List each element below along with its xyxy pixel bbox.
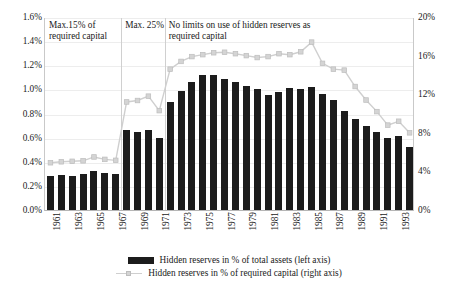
bar xyxy=(199,75,206,210)
legend-bar-swatch-icon xyxy=(128,257,154,264)
x-axis-tick-label: 1991 xyxy=(380,212,389,231)
bar xyxy=(69,176,76,210)
bar xyxy=(373,132,380,210)
left-axis-tick-label: 0.6% xyxy=(2,134,42,143)
bar xyxy=(297,89,304,210)
x-axis-labels: 1961196319651967196919711973197519771979… xyxy=(44,212,414,254)
left-axis-tick-label: 0.4% xyxy=(2,158,42,167)
bar xyxy=(167,102,174,210)
x-axis-tick-label: 1963 xyxy=(75,212,84,231)
bar xyxy=(243,86,250,210)
annotation-period-1: Max.15% of required capital xyxy=(49,20,121,42)
right-axis-tick-label: 20% xyxy=(418,13,458,22)
bar xyxy=(210,75,217,210)
bar xyxy=(406,147,413,210)
bar-series-total-assets xyxy=(45,18,413,210)
bar xyxy=(363,126,370,210)
bar xyxy=(134,132,141,210)
bar xyxy=(123,130,130,210)
x-axis-tick-label: 1983 xyxy=(293,212,302,231)
bar xyxy=(232,82,239,210)
left-axis-tick-label: 0.8% xyxy=(2,110,42,119)
bar xyxy=(58,175,65,210)
left-axis-tick-label: 0.0% xyxy=(2,206,42,215)
x-axis-tick-label: 1973 xyxy=(184,212,193,231)
bar xyxy=(188,82,195,210)
bar xyxy=(112,174,119,210)
left-axis-tick-label: 1.4% xyxy=(2,37,42,46)
legend-label-required-capital: Hidden reserves in % of required capital… xyxy=(148,268,342,278)
bar xyxy=(319,94,326,210)
bar xyxy=(156,138,163,210)
bar xyxy=(47,176,54,210)
chart-legend: Hidden reserves in % of total assets (le… xyxy=(0,255,458,278)
annotation-period-3: No limits on use of hidden reserves as r… xyxy=(169,20,339,42)
bar xyxy=(341,111,348,210)
bar xyxy=(178,91,185,210)
x-axis-tick-label: 1981 xyxy=(271,212,280,231)
bar xyxy=(286,88,293,210)
right-axis-tick-label: 16% xyxy=(418,52,458,61)
chart-container: 0.0%0.2%0.4%0.6%0.8%1.0%1.2%1.4%1.6% 0%4… xyxy=(0,0,458,291)
x-axis-tick-label: 1979 xyxy=(249,212,258,231)
legend-item-required-capital: Hidden reserves in % of required capital… xyxy=(116,268,342,278)
x-axis-tick-label: 1985 xyxy=(315,212,324,231)
x-axis-tick-label: 1975 xyxy=(206,212,215,231)
right-axis-tick-label: 12% xyxy=(418,90,458,99)
x-axis-tick-label: 1961 xyxy=(53,212,62,231)
bar xyxy=(80,174,87,210)
bar xyxy=(275,92,282,210)
bar xyxy=(254,89,261,210)
bar xyxy=(101,173,108,210)
bar xyxy=(265,95,272,210)
x-axis-tick-label: 1971 xyxy=(162,212,171,231)
x-axis-tick-label: 1965 xyxy=(97,212,106,231)
x-axis-tick-label: 1977 xyxy=(228,212,237,231)
bar xyxy=(145,130,152,210)
bar xyxy=(221,79,228,210)
left-axis-tick-label: 1.0% xyxy=(2,85,42,94)
bar xyxy=(352,119,359,210)
plot-area: Max.15% of required capitalMax. 25%No li… xyxy=(44,18,414,211)
right-axis-tick-label: 8% xyxy=(418,129,458,138)
bar xyxy=(308,87,315,210)
legend-item-total-assets: Hidden reserves in % of total assets (le… xyxy=(128,255,331,265)
x-axis-tick-label: 1967 xyxy=(119,212,128,231)
x-axis-tick-label: 1993 xyxy=(402,212,411,231)
bar xyxy=(384,138,391,210)
right-axis-tick-label: 0% xyxy=(418,206,458,215)
bar xyxy=(395,136,402,210)
left-axis-tick-label: 1.6% xyxy=(2,13,42,22)
left-axis-tick-label: 0.2% xyxy=(2,182,42,191)
x-axis-tick-label: 1969 xyxy=(141,212,150,231)
left-axis-tick-label: 1.2% xyxy=(2,61,42,70)
x-axis-tick-label: 1987 xyxy=(336,212,345,231)
bar xyxy=(90,171,97,210)
legend-line-swatch-icon xyxy=(116,270,142,277)
legend-label-total-assets: Hidden reserves in % of total assets (le… xyxy=(160,255,331,265)
x-axis-tick-label: 1989 xyxy=(358,212,367,231)
right-axis-tick-label: 4% xyxy=(418,167,458,176)
bar xyxy=(330,100,337,210)
